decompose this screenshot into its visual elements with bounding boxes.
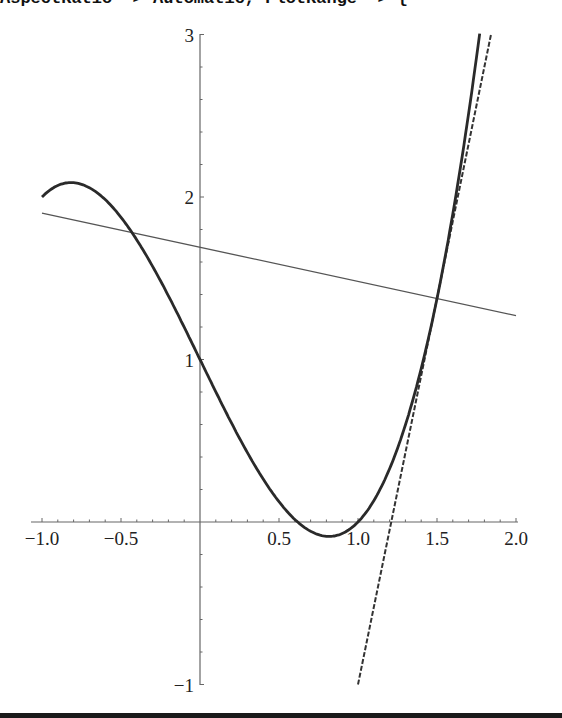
- y-tick-labels: −1123: [174, 25, 194, 696]
- x-tick-label: 2.0: [504, 528, 528, 549]
- y-tick-label: 2: [185, 187, 195, 208]
- x-tick-label: −1.0: [25, 528, 59, 549]
- x-tick-label: 0.5: [267, 528, 291, 549]
- axes: [31, 34, 518, 685]
- y-tick-label: −1: [174, 675, 194, 696]
- function-curve: [42, 34, 480, 537]
- x-tick-label: 1.5: [425, 528, 449, 549]
- bottom-border: [0, 713, 562, 718]
- x-tick-labels: −1.0−0.50.51.01.52.0: [25, 528, 528, 549]
- x-tick-label: −0.5: [104, 528, 138, 549]
- y-tick-label: 1: [185, 350, 195, 371]
- y-tick-label: 3: [185, 25, 195, 46]
- x-tick-label: 1.0: [346, 528, 370, 549]
- plot-area: −1.0−0.50.51.01.52.0 −1123: [0, 0, 562, 718]
